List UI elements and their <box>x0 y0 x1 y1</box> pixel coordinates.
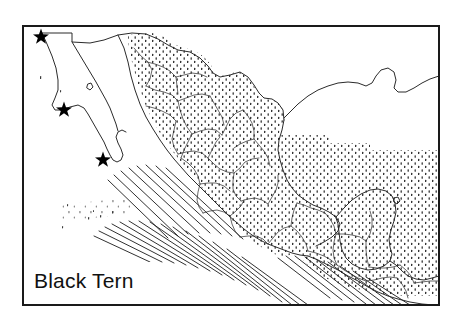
distribution-map-figure: Black Tern <box>0 0 461 331</box>
map-canvas: Black Tern <box>0 0 461 331</box>
species-label: Black Tern <box>34 269 134 292</box>
